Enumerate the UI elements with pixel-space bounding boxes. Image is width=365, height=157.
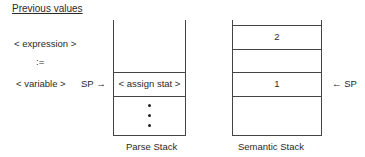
semantic-stack-cell: 2	[232, 31, 322, 42]
parse-stack-cell-assign-stat: < assign stat >	[113, 78, 186, 89]
semantic-stack-pointer: ← SP	[332, 78, 357, 89]
dot-icon	[148, 124, 151, 127]
dot-icon	[148, 114, 151, 117]
parse-stack-bottom	[113, 135, 186, 136]
parse-stack-caption: Parse Stack	[126, 141, 177, 152]
semantic-stack-cell: 1	[232, 78, 322, 89]
variable-label: < variable >	[16, 78, 66, 89]
previous-values-heading: Previous values	[12, 3, 83, 14]
parse-stack-pointer: SP →	[81, 78, 106, 89]
semantic-stack-divider	[232, 49, 322, 50]
semantic-stack-bottom	[232, 135, 322, 136]
semantic-stack-divider	[232, 25, 322, 26]
expression-label: < expression >	[14, 38, 76, 49]
semantic-stack-caption: Semantic Stack	[238, 141, 304, 152]
semantic-stack-divider	[232, 96, 322, 97]
assign-operator-label: :=	[36, 56, 44, 67]
semantic-stack-divider	[232, 72, 322, 73]
dot-icon	[148, 104, 151, 107]
parse-stack-divider	[113, 72, 186, 73]
parse-stack-divider	[113, 96, 186, 97]
